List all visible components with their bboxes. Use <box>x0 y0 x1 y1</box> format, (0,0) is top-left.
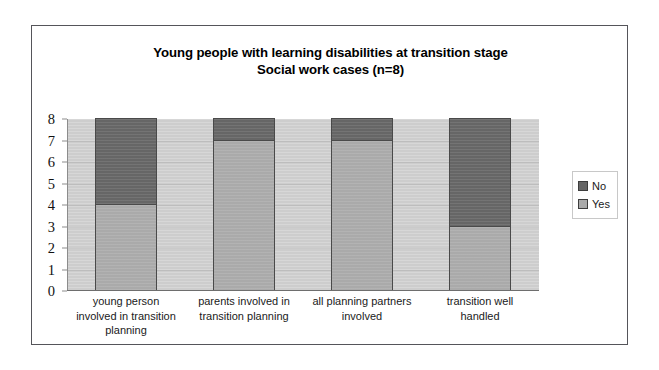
x-axis-category-label-line: transition planning <box>185 309 303 324</box>
x-axis-category-label: all planning partnersinvolved <box>303 294 421 323</box>
bar-segment-no[interactable] <box>449 118 511 227</box>
x-axis-category-labels: young personinvolved in transitionplanni… <box>67 294 539 346</box>
bar-segment-yes[interactable] <box>213 140 275 292</box>
plot-area <box>67 119 539 291</box>
x-axis-category-label-line: young person <box>67 294 185 309</box>
chart-figure-frame: Young people with learning disabilities … <box>31 25 628 345</box>
y-axis-line <box>67 119 68 291</box>
y-tick-label: 2 <box>48 241 55 256</box>
x-axis-category-label-line: planning <box>67 323 185 338</box>
chart-title-line1: Young people with learning disabilities … <box>153 45 507 60</box>
legend-label: No <box>592 181 606 192</box>
legend-swatch-yes <box>578 199 588 209</box>
y-tick-label: 8 <box>48 112 55 127</box>
x-axis-category-label-line: involved <box>303 309 421 324</box>
legend-item-yes[interactable]: Yes <box>578 195 613 213</box>
bar-segment-no[interactable] <box>331 118 393 141</box>
bar-group[interactable] <box>449 119 511 291</box>
legend-item-no[interactable]: No <box>578 177 613 195</box>
x-axis-category-label: young personinvolved in transitionplanni… <box>67 294 185 338</box>
y-tick-label: 5 <box>48 176 55 191</box>
bar-segment-yes[interactable] <box>449 226 511 292</box>
bar-segment-yes[interactable] <box>331 140 393 292</box>
legend-swatch-no <box>578 181 588 191</box>
x-axis-category-label-line: parents involved in <box>185 294 303 309</box>
x-axis-category-label-line: handled <box>421 309 539 324</box>
y-tick-label: 6 <box>48 155 55 170</box>
bar-segment-no[interactable] <box>213 118 275 141</box>
y-tick-label: 0 <box>48 284 55 299</box>
y-tick-label: 1 <box>48 262 55 277</box>
y-axis: 876543210 <box>32 119 62 291</box>
y-tick-label: 3 <box>48 219 55 234</box>
x-axis-category-label: transition wellhandled <box>421 294 539 323</box>
legend-label: Yes <box>592 199 610 210</box>
chart-title-line2: Social work cases (n=8) <box>32 61 629 78</box>
y-tick-label: 4 <box>48 198 55 213</box>
chart-title: Young people with learning disabilities … <box>32 44 629 78</box>
chart-legend: NoYes <box>572 171 618 219</box>
bar-segment-no[interactable] <box>95 118 157 205</box>
bar-group[interactable] <box>213 119 275 291</box>
x-axis-category-label-line: all planning partners <box>303 294 421 309</box>
x-axis-category-label-line: transition well <box>421 294 539 309</box>
x-axis-line <box>67 290 539 291</box>
bar-group[interactable] <box>331 119 393 291</box>
x-axis-category-label-line: involved in transition <box>67 309 185 324</box>
bar-segment-yes[interactable] <box>95 204 157 291</box>
x-axis-category-label: parents involved intransition planning <box>185 294 303 323</box>
bar-group[interactable] <box>95 119 157 291</box>
y-tick-label: 7 <box>48 133 55 148</box>
